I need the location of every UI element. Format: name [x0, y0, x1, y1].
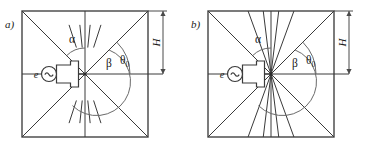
panel-b-alpha-label: α: [255, 33, 261, 45]
panel-a-dim-arrow-top: [160, 11, 165, 16]
panel-a-ray-4: [94, 100, 101, 123]
figure-root: eHαβθ0a)eHαβθ0b): [0, 0, 372, 154]
panel-a-source-feed: [57, 61, 79, 87]
panel-a-ray-2: [88, 25, 90, 48]
panel-a-ray-7: [69, 100, 76, 123]
panel-a-beta-label: β: [106, 57, 112, 70]
diagram-canvas: eHαβθ0a)eHαβθ0b): [0, 0, 372, 154]
panel-b-dim-arrow-top: [346, 11, 351, 16]
panel-b-centre-point: [269, 72, 272, 75]
panel-a-alpha-arc: [67, 48, 85, 56]
panel-a: eHαβθ0a): [5, 11, 167, 137]
panel-b-dim-arrow-bottom: [346, 69, 351, 74]
panel-a-alpha-label: α: [69, 33, 75, 45]
panel-b-source-label: e: [220, 69, 225, 80]
panel-b-theta-subscript: 0: [312, 60, 316, 69]
panel-a-dim-arrow-bottom: [160, 69, 165, 74]
panel-a-centre-point: [83, 72, 86, 75]
panel-b: eHαβθ0b): [191, 11, 353, 137]
panel-b-panel-label: b): [191, 18, 201, 31]
panel-a-theta-label: θ0: [120, 54, 130, 69]
panel-a-dimension-label: H: [150, 37, 162, 47]
panel-a-ray-5: [88, 100, 90, 123]
panel-a-source-label: e: [34, 69, 39, 80]
panel-b-source-feed: [243, 61, 265, 87]
panel-b-beta-label: β: [292, 57, 298, 70]
panel-a-ray-1: [80, 25, 82, 48]
panel-a-panel-label: a): [5, 18, 15, 31]
panel-a-theta-subscript: 0: [126, 60, 130, 69]
panel-b-dimension-label: H: [336, 37, 348, 47]
panel-a-ray-3: [94, 25, 101, 48]
panel-b-theta-label: θ0: [306, 54, 316, 69]
